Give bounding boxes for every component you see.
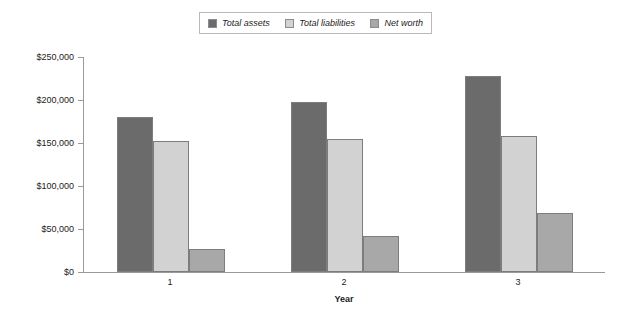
x-axis-title: Year <box>83 295 605 304</box>
bar <box>537 213 573 272</box>
y-axis-tick-label: $250,000 <box>36 53 74 62</box>
legend-swatch-net-worth <box>370 19 379 28</box>
y-axis-tick-label: $50,000 <box>41 225 74 234</box>
legend-item-net-worth: Net worth <box>370 19 423 28</box>
y-axis-tick <box>78 57 83 58</box>
bar <box>291 102 327 272</box>
bar <box>117 117 153 272</box>
x-axis-tick-label: 2 <box>341 278 346 287</box>
legend-swatch-total-liabilities <box>285 19 294 28</box>
legend-label-net-worth: Net worth <box>384 19 423 28</box>
y-axis-tick-label: $150,000 <box>36 139 74 148</box>
bar <box>501 136 537 272</box>
y-axis-tick-label: $0 <box>64 268 74 277</box>
bars-layer <box>84 57 605 272</box>
legend-swatch-total-assets <box>208 19 217 28</box>
y-axis-tick <box>78 186 83 187</box>
legend-label-total-liabilities: Total liabilities <box>299 19 355 28</box>
y-axis-tick <box>78 229 83 230</box>
legend-item-total-liabilities: Total liabilities <box>285 19 355 28</box>
bar <box>189 249 225 272</box>
y-axis-tick-label: $200,000 <box>36 96 74 105</box>
y-axis-tick-label: $100,000 <box>36 182 74 191</box>
legend-label-total-assets: Total assets <box>222 19 270 28</box>
bar <box>465 76 501 272</box>
x-axis-line <box>83 272 605 273</box>
x-axis-tick-label: 3 <box>515 278 520 287</box>
chart-legend: Total assets Total liabilities Net worth <box>199 12 432 34</box>
y-axis-tick <box>78 272 83 273</box>
bar-chart: Total assets Total liabilities Net worth… <box>0 0 626 315</box>
y-axis-tick <box>78 143 83 144</box>
bar <box>153 141 189 272</box>
bar <box>327 139 363 272</box>
y-axis-tick <box>78 100 83 101</box>
plot-area: $250,000$200,000$150,000$100,000$50,000$… <box>83 57 605 272</box>
x-axis-tick-label: 1 <box>167 278 172 287</box>
bar <box>363 236 399 272</box>
legend-item-total-assets: Total assets <box>208 19 270 28</box>
